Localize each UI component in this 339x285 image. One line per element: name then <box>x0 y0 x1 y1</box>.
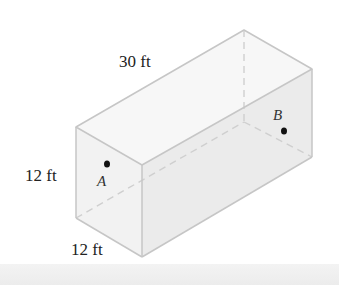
prism-figure <box>0 0 339 285</box>
point-b-label: B <box>273 108 282 123</box>
point-a-label: A <box>97 174 106 189</box>
bottom-band <box>0 264 339 285</box>
width-label: 12 ft <box>71 241 103 258</box>
length-label: 30 ft <box>119 53 151 70</box>
point-a-dot <box>104 160 110 167</box>
prism-diagram: 30 ft 12 ft 12 ft A B <box>0 0 339 285</box>
height-label: 12 ft <box>25 167 57 184</box>
point-b-dot <box>281 127 287 134</box>
